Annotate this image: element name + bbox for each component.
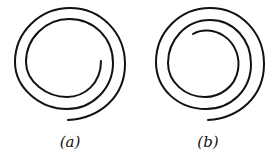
panel-label-a: (a) [50,133,90,151]
spiral-a [15,8,125,120]
panel-label-b: (b) [188,133,228,151]
spiral-figure: (a) (b) [0,0,280,163]
spiral-b [156,8,264,120]
spiral-diagram [0,0,280,163]
